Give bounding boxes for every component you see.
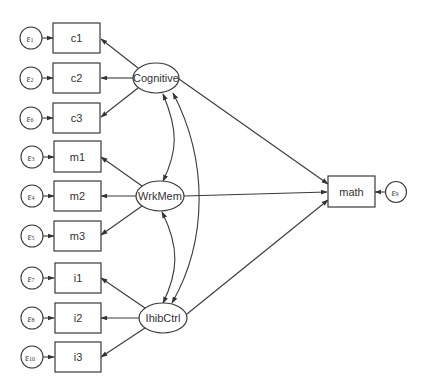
sem-path-diagram: c1 c2 c3 m1 m2 m3 i1 i2 i3 ε1 ε2 bbox=[0, 0, 423, 392]
indicator-i1: i1 bbox=[55, 263, 101, 293]
indicator-i2: i2 bbox=[55, 303, 101, 333]
error-term-c2: ε2 bbox=[20, 67, 42, 89]
indicator-label: i3 bbox=[74, 351, 83, 363]
outcome-math: math bbox=[328, 176, 375, 207]
indicator-label: c2 bbox=[71, 72, 83, 84]
error-term-c1: ε1 bbox=[20, 27, 42, 49]
indicator-m2: m2 bbox=[54, 181, 101, 211]
error-term-i2: ε8 bbox=[21, 307, 43, 329]
indicator-i3: i3 bbox=[55, 342, 101, 372]
path-cognitive-math bbox=[179, 79, 328, 184]
indicator-label: i2 bbox=[74, 312, 83, 324]
path-ihibctrl-math bbox=[182, 200, 328, 318]
path-wrkmem-math bbox=[184, 192, 327, 196]
error-term-m1: ε3 bbox=[21, 146, 43, 168]
loading-ihibctrl-i3 bbox=[101, 328, 145, 357]
indicator-label: c3 bbox=[71, 112, 83, 124]
indicator-c2: c2 bbox=[53, 63, 100, 93]
indicator-label: m2 bbox=[70, 190, 85, 202]
error-term-math: ε9 bbox=[386, 182, 407, 203]
error-term-i3: ε10 bbox=[21, 346, 43, 368]
error-term-m3: ε5 bbox=[21, 225, 43, 247]
latent-ihibctrl: IhibCtrl bbox=[139, 303, 187, 333]
indicator-label: m3 bbox=[70, 230, 85, 242]
indicator-c3: c3 bbox=[53, 103, 100, 133]
loading-wrkmem-m1 bbox=[101, 157, 142, 186]
error-term-c3: ε6 bbox=[20, 107, 42, 129]
indicator-label: i1 bbox=[74, 272, 83, 284]
loading-ihibctrl-i1 bbox=[101, 278, 145, 308]
latent-wrkmem: WrkMem bbox=[136, 181, 184, 211]
indicator-c1: c1 bbox=[53, 23, 100, 53]
latent-cognitive: Cognitive bbox=[133, 63, 179, 93]
indicator-label: m1 bbox=[70, 151, 85, 163]
latent-label: WrkMem bbox=[138, 190, 182, 202]
covariance-cognitive-wrkmem bbox=[163, 94, 174, 181]
indicator-label: c1 bbox=[71, 32, 83, 44]
covariance-wrkmem-ihibctrl bbox=[162, 212, 175, 303]
loading-wrkmem-m3 bbox=[101, 206, 142, 235]
latent-label: IhibCtrl bbox=[146, 312, 181, 324]
error-term-m2: ε4 bbox=[21, 185, 43, 207]
outcome-label: math bbox=[339, 186, 363, 198]
indicator-m1: m1 bbox=[54, 141, 101, 172]
loading-cognitive-c3 bbox=[101, 88, 138, 117]
latent-label: Cognitive bbox=[133, 72, 179, 84]
loading-cognitive-c1 bbox=[101, 39, 138, 68]
structural-paths bbox=[179, 79, 328, 318]
error-term-i1: ε7 bbox=[21, 267, 43, 289]
indicator-m3: m3 bbox=[54, 221, 101, 251]
